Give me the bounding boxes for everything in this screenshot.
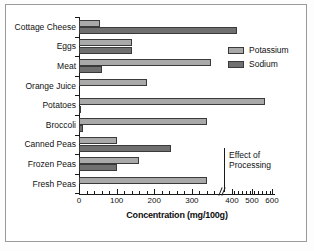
bar-potassium-potatoes (79, 98, 265, 105)
x-minor-tick (102, 191, 103, 194)
chart-figure: 0100200300400500600 Cottage CheeseEggsMe… (0, 0, 314, 251)
x-tick-600 (272, 189, 273, 194)
annotation-bracket (224, 148, 225, 192)
x-minor-tick (147, 191, 148, 194)
category-label-frozen-peas: Frozen Peas (28, 159, 76, 169)
x-tick-label-600: 600 (265, 196, 278, 206)
bar-sodium-eggs (79, 47, 132, 54)
legend-label-sodium: Sodium (249, 59, 278, 69)
x-tick-label-400: 400 (225, 196, 238, 206)
bar-potassium-fresh-peas (79, 177, 207, 184)
plot-area: 0100200300400500600 Cottage CheeseEggsMe… (0, 0, 314, 251)
category-label-cottage-cheese: Cottage Cheese (15, 22, 76, 32)
bar-sodium-frozen-peas (79, 164, 117, 171)
x-minor-tick (139, 191, 140, 194)
bar-sodium-cottage-cheese (79, 27, 237, 34)
bar-sodium-broccoli (79, 125, 83, 132)
x-minor-tick (199, 191, 200, 194)
x-minor-tick (87, 191, 88, 194)
effect-of-processing-annotation: Effect of Processing (229, 150, 271, 170)
x-minor-tick (184, 191, 185, 194)
x-tick-label-500: 500 (245, 196, 258, 206)
category-label-fresh-peas: Fresh Peas (33, 179, 76, 189)
x-minor-tick (246, 191, 247, 194)
x-tick-500 (252, 189, 253, 194)
x-minor-tick (250, 191, 251, 194)
y-tick (75, 174, 79, 175)
x-minor-tick (242, 191, 243, 194)
y-tick (75, 76, 79, 77)
x-minor-tick (169, 191, 170, 194)
x-tick-label-200: 200 (148, 196, 161, 206)
x-minor-tick (270, 191, 271, 194)
x-minor-tick (162, 191, 163, 194)
y-tick (75, 37, 79, 38)
category-label-broccoli: Broccoli (46, 120, 76, 130)
legend-label-potassium: Potassium (249, 45, 289, 55)
category-label-canned-peas: Canned Peas (24, 139, 76, 149)
bar-sodium-canned-peas (79, 145, 171, 152)
annotation-line-2: Processing (229, 160, 271, 170)
chart-legend: Potassium Sodium (228, 44, 289, 72)
bar-sodium-potatoes (79, 106, 81, 113)
category-label-meat: Meat (57, 61, 76, 71)
y-tick (75, 95, 79, 96)
x-tick-400 (232, 189, 233, 194)
x-minor-tick (258, 191, 259, 194)
x-tick-200 (154, 189, 155, 194)
legend-swatch-sodium (228, 61, 244, 68)
bar-potassium-cottage-cheese (79, 20, 100, 27)
x-tick-300 (192, 189, 193, 194)
x-minor-tick (238, 191, 239, 194)
x-axis-line (79, 194, 275, 195)
bar-potassium-orange-juice (79, 79, 147, 86)
y-tick (75, 135, 79, 136)
x-tick-100 (117, 189, 118, 194)
y-tick (75, 115, 79, 116)
x-minor-tick (109, 191, 110, 194)
legend-item-sodium: Sodium (228, 58, 289, 70)
x-minor-tick (94, 191, 95, 194)
annotation-line-1: Effect of (229, 150, 271, 160)
y-tick (75, 193, 79, 194)
bar-sodium-meat (79, 66, 102, 73)
x-minor-tick (234, 191, 235, 194)
legend-item-potassium: Potassium (228, 44, 289, 56)
y-tick (75, 17, 79, 18)
category-label-eggs: Eggs (57, 41, 76, 51)
category-label-orange-juice: Orange Juice (25, 81, 76, 91)
bar-potassium-eggs (79, 39, 132, 46)
legend-swatch-potassium (228, 47, 244, 54)
x-minor-tick (262, 191, 263, 194)
x-minor-tick (214, 191, 215, 194)
x-minor-tick (266, 191, 267, 194)
bar-potassium-broccoli (79, 118, 207, 125)
bar-potassium-frozen-peas (79, 157, 139, 164)
x-minor-tick (207, 191, 208, 194)
x-minor-tick (177, 191, 178, 194)
y-tick (75, 154, 79, 155)
bar-potassium-canned-peas (79, 137, 117, 144)
x-tick-0 (79, 189, 80, 194)
x-minor-tick (124, 191, 125, 194)
x-tick-label-0: 0 (77, 196, 81, 206)
x-axis-title: Concentration (mg/100g) (79, 210, 275, 220)
x-minor-tick (132, 191, 133, 194)
x-tick-label-300: 300 (185, 196, 198, 206)
category-label-potatoes: Potatoes (42, 100, 76, 110)
y-tick (75, 56, 79, 57)
x-minor-tick (254, 191, 255, 194)
bar-potassium-meat (79, 59, 211, 66)
x-tick-label-100: 100 (110, 196, 123, 206)
